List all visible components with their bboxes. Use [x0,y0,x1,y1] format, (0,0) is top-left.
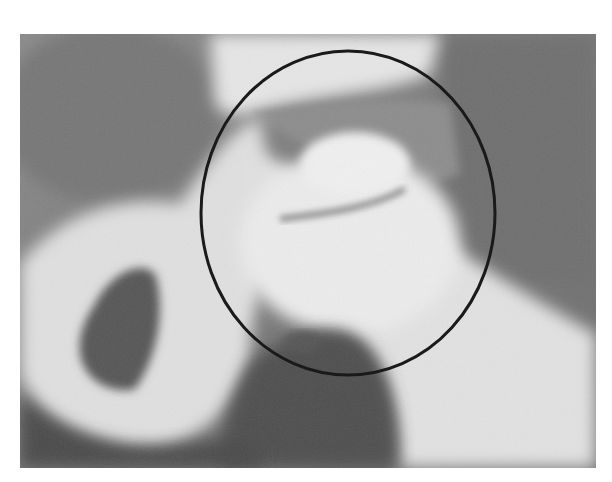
xray-illustration [20,34,596,468]
film-grain [20,34,596,468]
xray-image [20,34,596,468]
